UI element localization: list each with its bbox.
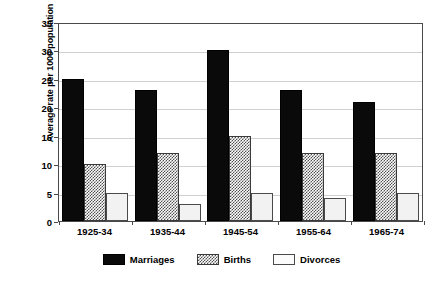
bar-group (135, 24, 201, 221)
legend-swatch-divorces-icon (273, 254, 295, 265)
x-axis-label-1965-74: 1965-74 (350, 226, 423, 237)
x-axis-label-1945-54: 1945-54 (204, 226, 277, 237)
bar-births-1935-44 (157, 153, 179, 221)
bar-births-1965-74 (375, 153, 397, 221)
x-axis-tick-mark (278, 221, 279, 225)
legend-swatch-births-icon (197, 254, 219, 265)
bar-divorces-1965-74 (397, 193, 419, 221)
legend-label: Divorces (300, 254, 340, 265)
y-axis-tick-mark (54, 222, 58, 223)
x-axis-tick-mark (59, 221, 60, 225)
x-axis-labels: 1925-341935-441945-541955-641965-74 (58, 226, 423, 237)
bar-group (353, 24, 419, 221)
bar-chart: Average rate per 1000 population 0510152… (0, 0, 443, 287)
y-axis-tick-label: 35 (10, 18, 52, 29)
legend-swatch-marriages-icon (103, 254, 125, 265)
bar-marriages-1955-64 (280, 90, 302, 221)
chart-legend: MarriagesBirthsDivorces (0, 254, 443, 265)
bar-divorces-1945-54 (251, 193, 273, 221)
bar-marriages-1925-34 (62, 79, 84, 221)
y-axis-tick-label: 5 (10, 188, 52, 199)
bar-marriages-1965-74 (353, 102, 375, 221)
x-axis-tick-mark (424, 221, 425, 225)
bar-divorces-1955-64 (324, 198, 346, 221)
legend-item-marriages: Marriages (103, 254, 175, 265)
y-axis-tick-label: 30 (10, 46, 52, 57)
y-axis-tick-label: 25 (10, 74, 52, 85)
legend-item-births: Births (197, 254, 251, 265)
bar-group (207, 24, 273, 221)
x-axis-label-1955-64: 1955-64 (277, 226, 350, 237)
legend-label: Births (224, 254, 251, 265)
legend-label: Marriages (130, 254, 175, 265)
x-axis-tick-mark (132, 221, 133, 225)
x-axis-label-1925-34: 1925-34 (58, 226, 131, 237)
x-axis-tick-mark (351, 221, 352, 225)
x-axis-label-1935-44: 1935-44 (131, 226, 204, 237)
bar-births-1925-34 (84, 164, 106, 221)
y-axis-tick-label: 20 (10, 103, 52, 114)
bar-marriages-1935-44 (135, 90, 157, 221)
bar-group (62, 24, 128, 221)
bar-births-1945-54 (229, 136, 251, 221)
plot-area (58, 23, 423, 222)
bar-group (280, 24, 346, 221)
y-axis-tick-label: 15 (10, 131, 52, 142)
bar-marriages-1945-54 (207, 50, 229, 221)
x-axis-tick-mark (205, 221, 206, 225)
legend-item-divorces: Divorces (273, 254, 340, 265)
y-axis-tick-label: 10 (10, 160, 52, 171)
bar-groups (59, 24, 422, 221)
bar-divorces-1935-44 (179, 204, 201, 221)
bar-divorces-1925-34 (106, 193, 128, 221)
y-axis-tick-label: 0 (10, 217, 52, 228)
bar-births-1955-64 (302, 153, 324, 221)
